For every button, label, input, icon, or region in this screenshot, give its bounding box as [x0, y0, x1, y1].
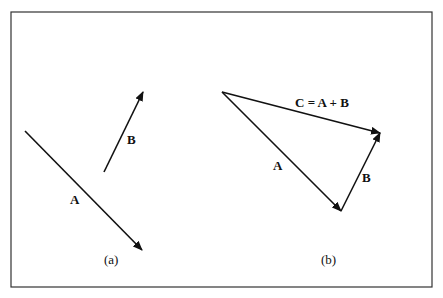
panel-a-caption: (a) [104, 252, 118, 267]
panel-b: C = A + B A B (b) [222, 92, 380, 267]
vector-b-label: B [127, 132, 136, 147]
figure-border [11, 12, 432, 287]
resultant-label: C = A + B [295, 95, 349, 110]
vector-a-label: A [273, 158, 283, 173]
vector-b-arrow [104, 92, 143, 172]
vector-a-label: A [70, 192, 80, 207]
vector-b-arrow [341, 133, 380, 211]
panel-b-caption: (b) [321, 252, 336, 267]
vector-addition-figure: B A (a) C = A + B A B (b) [0, 0, 443, 298]
vector-a-arrow [25, 131, 142, 250]
panel-a: B A (a) [25, 92, 143, 267]
vector-b-label: B [362, 170, 371, 185]
